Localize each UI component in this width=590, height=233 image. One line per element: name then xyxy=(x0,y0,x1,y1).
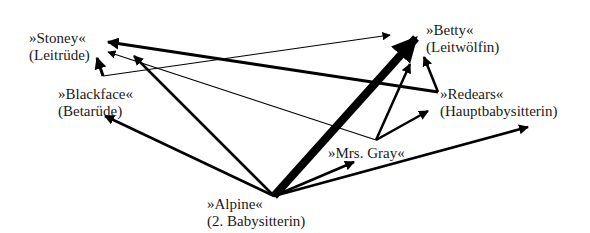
node-name: »Betty« xyxy=(426,22,499,39)
node-betty: »Betty« (Leitwölfin) xyxy=(426,22,499,56)
edge-blackface-stoney xyxy=(97,58,103,76)
node-name: »Redears« xyxy=(440,86,557,103)
edge-blackface-betty xyxy=(103,35,390,76)
node-role: (Hauptbabysitterin) xyxy=(440,103,557,120)
node-blackface: »Blackface« (Betarüde) xyxy=(58,86,133,120)
node-name: »Blackface« xyxy=(58,86,133,103)
edge-alpine-blackface xyxy=(105,116,274,196)
edge-alpine-betty xyxy=(274,38,416,196)
node-mrsgray: »Mrs. Gray« xyxy=(328,145,405,162)
node-alpine: »Alpine« (2. Babysitterin) xyxy=(207,196,305,230)
edge-alpine-stoney xyxy=(134,56,274,196)
node-redears: »Redears« (Hauptbabysitterin) xyxy=(440,86,557,120)
node-stoney: »Stoney« (Leitrüde) xyxy=(29,30,90,64)
node-role: (Leitrüde) xyxy=(29,47,90,64)
wolf-pack-diagram: »Stoney« (Leitrüde) »Betty« (Leitwölfin)… xyxy=(0,0,590,233)
node-name: »Stoney« xyxy=(29,30,90,47)
node-role: (2. Babysitterin) xyxy=(207,213,305,230)
edge-redears-betty xyxy=(424,57,438,92)
node-role: (Leitwölfin) xyxy=(426,39,499,56)
node-role: (Betarüde) xyxy=(58,103,133,120)
node-name: »Mrs. Gray« xyxy=(328,145,405,162)
node-name: »Alpine« xyxy=(207,196,305,213)
